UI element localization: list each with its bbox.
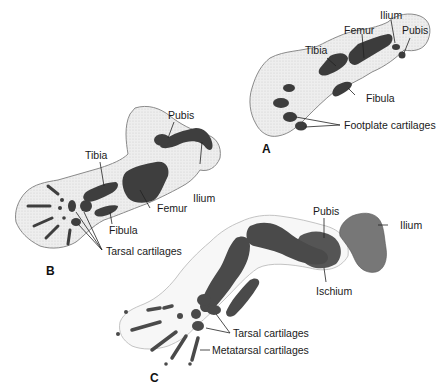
- label-b-pubis: Pubis: [168, 110, 194, 121]
- panel-letter-a: A: [262, 143, 271, 155]
- label-c-tarsal-cartilages: Tarsal cartilages: [233, 328, 309, 339]
- label-c-pubis: Pubis: [313, 206, 339, 217]
- label-a-ilium: Ilium: [380, 10, 402, 21]
- label-c-ilium: Ilium: [400, 220, 422, 231]
- label-b-tarsal-cartilages: Tarsal cartilages: [106, 246, 182, 257]
- label-b-femur: Femur: [157, 203, 187, 214]
- label-a-pubis: Pubis: [402, 25, 428, 36]
- label-c-ischium: Ischium: [316, 286, 352, 297]
- label-b-ilium: Ilium: [193, 193, 215, 204]
- label-c-metatarsal-cartilages: Metatarsal cartilages: [212, 345, 309, 356]
- panel-letter-b: B: [46, 265, 55, 277]
- label-b-tibia: Tibia: [85, 150, 107, 161]
- label-a-tibia: Tibia: [305, 45, 327, 56]
- label-b-fibula: Fibula: [109, 225, 138, 236]
- label-a-femur: Femur: [344, 25, 374, 36]
- label-a-fibula: Fibula: [366, 93, 395, 104]
- limb-development-diagram: [0, 0, 440, 392]
- label-a-footplate-cartilages: Footplate cartilages: [344, 120, 436, 131]
- panel-letter-c: C: [150, 372, 159, 384]
